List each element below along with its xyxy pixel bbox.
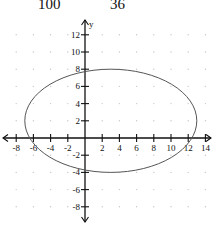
grid-dot — [102, 34, 103, 35]
grid-dot — [205, 206, 206, 207]
grid-dot — [16, 69, 17, 70]
grid-dot — [205, 155, 206, 156]
grid-dot — [170, 86, 171, 87]
x-tick-label: 10 — [167, 143, 177, 153]
grid-dot — [136, 51, 137, 52]
grid-dot — [16, 86, 17, 87]
x-tick-label: 6 — [134, 143, 139, 153]
grid-dot — [33, 206, 34, 207]
y-tick-label: 6 — [76, 81, 81, 91]
grid-dot — [67, 34, 68, 35]
grid-dot — [33, 155, 34, 156]
grid-dot — [153, 34, 154, 35]
grid-dot — [153, 86, 154, 87]
grid-dot — [170, 155, 171, 156]
grid-dot — [205, 34, 206, 35]
grid-dot — [33, 120, 34, 121]
grid-dot — [205, 51, 206, 52]
y-tick-label: -8 — [73, 202, 81, 212]
grid-dot — [67, 103, 68, 104]
grid-dot — [67, 120, 68, 121]
grid-dot — [205, 120, 206, 121]
grid-dot — [153, 103, 154, 104]
grid-dot — [50, 155, 51, 156]
grid-dot — [50, 120, 51, 121]
grid-dot — [102, 206, 103, 207]
grid-dot — [170, 103, 171, 104]
grid-dot — [188, 172, 189, 173]
grid-dot — [188, 34, 189, 35]
grid-dot — [136, 189, 137, 190]
grid-dot — [102, 103, 103, 104]
grid-dot — [205, 189, 206, 190]
grid-dot — [50, 189, 51, 190]
grid-dot — [153, 206, 154, 207]
grid-dot — [153, 69, 154, 70]
grid-dot — [119, 155, 120, 156]
grid-dot — [50, 206, 51, 207]
grid-dot — [16, 103, 17, 104]
x-tick-label: -4 — [47, 143, 55, 153]
grid-dot — [136, 120, 137, 121]
grid-dot — [119, 120, 120, 121]
grid-dot — [16, 120, 17, 121]
grid-dot — [33, 34, 34, 35]
grid-dot — [119, 103, 120, 104]
grid-dot — [153, 189, 154, 190]
grid-dot — [119, 86, 120, 87]
grid-dot — [16, 155, 17, 156]
x-tick-label: 8 — [152, 143, 157, 153]
y-tick-label: -2 — [73, 150, 81, 160]
grid-dot — [33, 86, 34, 87]
grid-dot — [119, 34, 120, 35]
grid-dot — [16, 172, 17, 173]
grid-dot — [170, 34, 171, 35]
grid-dot — [188, 155, 189, 156]
grid-dot — [50, 172, 51, 173]
grid-dot — [188, 69, 189, 70]
x-tick-label: 4 — [117, 143, 122, 153]
grid-dot — [188, 86, 189, 87]
grid-dot — [67, 69, 68, 70]
grid-dot — [102, 86, 103, 87]
grid-dot — [188, 120, 189, 121]
grid-dot — [170, 172, 171, 173]
grid-dot — [170, 51, 171, 52]
grid-dot — [136, 206, 137, 207]
grid-dot — [136, 69, 137, 70]
grid-dot — [188, 189, 189, 190]
grid-dot — [136, 155, 137, 156]
grid-dot — [102, 155, 103, 156]
x-tick-label: 2 — [100, 143, 105, 153]
x-tick-label: 14 — [201, 143, 211, 153]
grid-dot — [205, 69, 206, 70]
grid-dot — [170, 206, 171, 207]
grid-dot — [67, 189, 68, 190]
grid-dot — [188, 103, 189, 104]
x-tick-label: -6 — [30, 143, 38, 153]
x-tick-label: -2 — [64, 143, 72, 153]
grid-dot — [16, 51, 17, 52]
grid-dot — [205, 103, 206, 104]
grid-dot — [136, 172, 137, 173]
grid-dot — [33, 51, 34, 52]
grid-dot — [136, 34, 137, 35]
grid-dot — [119, 51, 120, 52]
grid-dot — [50, 69, 51, 70]
y-tick-label: 4 — [76, 99, 81, 109]
y-tick-label: -6 — [73, 185, 81, 195]
x-tick-label: 12 — [184, 143, 193, 153]
grid-dot — [16, 206, 17, 207]
grid-dot — [188, 51, 189, 52]
grid-dot — [170, 189, 171, 190]
grid-dot — [205, 86, 206, 87]
grid-dot — [119, 189, 120, 190]
grid-dot — [119, 206, 120, 207]
y-axis-label: y — [89, 19, 94, 29]
grid-dot — [16, 34, 17, 35]
y-tick-label: 10 — [71, 47, 81, 57]
grid-dot — [50, 51, 51, 52]
grid-dot — [153, 120, 154, 121]
grid-dot — [67, 206, 68, 207]
grid-dot — [67, 172, 68, 173]
